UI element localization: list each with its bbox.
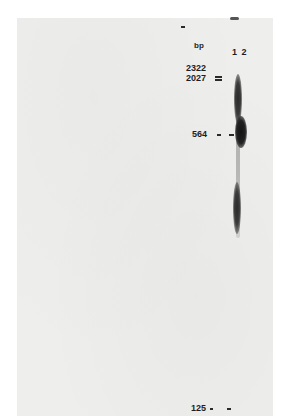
- unit-label: bp: [194, 41, 204, 51]
- marker-label-2027: 2027: [186, 73, 206, 83]
- band-low: [233, 182, 241, 234]
- lane-labels: 1 2: [232, 47, 248, 57]
- well-mark-lane-2: [230, 17, 239, 20]
- marker-tick-125-a: [210, 408, 213, 410]
- marker-tick-2027: [215, 79, 222, 81]
- marker-tick-564-a: [217, 134, 221, 136]
- marker-label-2322: 2322: [186, 63, 206, 73]
- marker-label-125: 125: [191, 403, 206, 413]
- marker-tick-125-b: [227, 408, 231, 410]
- marker-tick-2322: [215, 76, 222, 78]
- top-marker-tick: [181, 26, 185, 28]
- marker-tick-564-b: [229, 134, 234, 136]
- band-564: [235, 116, 247, 148]
- marker-label-564: 564: [192, 129, 207, 139]
